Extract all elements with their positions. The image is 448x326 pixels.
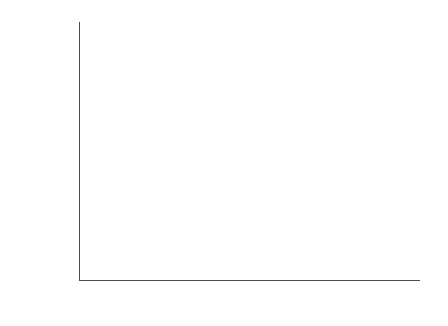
area-series-canvas (80, 22, 421, 281)
x-axis-tick-labels (79, 284, 420, 298)
y-axis-tick-labels (8, 0, 74, 326)
plot-area (79, 22, 420, 281)
chart-legend (0, 300, 448, 318)
stacked-area-chart (0, 0, 448, 326)
